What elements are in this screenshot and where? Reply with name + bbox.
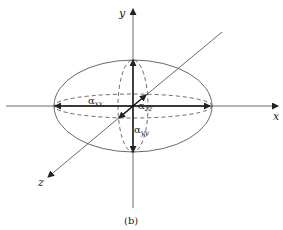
- alpha-zz-label: αzz: [138, 100, 152, 113]
- z-axis-upper: [133, 32, 222, 106]
- x-axis-label: x: [273, 110, 280, 123]
- alpha-yy-label: αyy: [134, 124, 150, 137]
- figure-caption: (b): [124, 215, 138, 226]
- z-axis-label: z: [37, 176, 44, 189]
- alpha-zz-arrow-front: [119, 106, 133, 118]
- y-axis-label: y: [118, 7, 126, 20]
- ellipsoid-diagram: y x z αxx αzz αyy (b): [0, 0, 283, 230]
